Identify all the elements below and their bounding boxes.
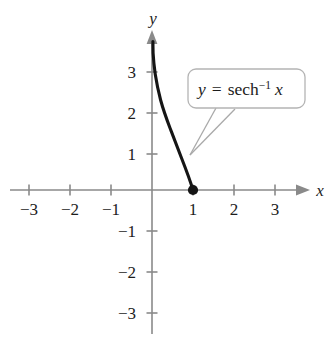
x-axis-arrowhead: [296, 185, 310, 196]
figure-container: −3 −2 −1 1 2 3 x 3 2 1 −1 −2 −: [0, 0, 335, 344]
y-ticklabel--3: −3: [118, 304, 136, 323]
x-axis: −3 −2 −1 1 2 3 x: [10, 181, 324, 219]
y-axis: 3 2 1 −1 −2 −3 y: [118, 9, 158, 334]
y-axis-label: y: [147, 9, 157, 28]
callout-function: sech: [228, 79, 259, 99]
x-ticklabel-2: 2: [230, 200, 239, 219]
y-ticklabel-1: 1: [128, 145, 137, 164]
curve-endpoint-dot: [188, 185, 198, 195]
leader-line-right: [190, 109, 235, 155]
x-ticklabel--2: −2: [61, 200, 79, 219]
x-ticklabel--1: −1: [102, 200, 120, 219]
callout-box-group: y=sech−1x: [188, 69, 305, 108]
x-ticklabel-1: 1: [189, 200, 198, 219]
callout-argument: x: [274, 79, 283, 99]
x-ticklabel--3: −3: [20, 200, 38, 219]
x-ticklabel-3: 3: [271, 200, 280, 219]
callout-exponent: −1: [259, 79, 271, 91]
y-ticklabel--1: −1: [118, 222, 136, 241]
callout-lhs: y: [196, 79, 206, 99]
x-axis-label: x: [315, 181, 324, 200]
callout-leader: [190, 108, 235, 155]
sech-inverse-plot: −3 −2 −1 1 2 3 x 3 2 1 −1 −2 −: [0, 0, 335, 344]
sech-inverse-curve: [153, 42, 193, 191]
y-ticklabel-3: 3: [128, 63, 137, 82]
y-ticklabel--2: −2: [118, 263, 136, 282]
y-ticklabel-2: 2: [128, 104, 137, 123]
curve-group: [153, 42, 198, 196]
callout-equals: =: [212, 79, 222, 99]
